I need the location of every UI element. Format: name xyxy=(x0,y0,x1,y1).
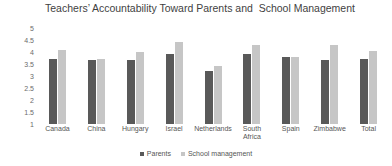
bar-parents xyxy=(166,54,174,124)
bar-parents xyxy=(49,59,57,124)
bar-group xyxy=(349,28,388,124)
bar-group xyxy=(77,28,116,124)
bar-parents xyxy=(205,71,213,124)
bar-parents xyxy=(127,60,135,124)
legend-swatch-icon xyxy=(140,152,144,156)
plot-area xyxy=(38,28,388,124)
bar-school-management xyxy=(58,50,66,124)
y-axis-tick-label: 2.5 xyxy=(24,85,34,92)
legend-entry[interactable]: Parents xyxy=(140,150,171,158)
bar-group xyxy=(155,28,194,124)
y-axis-tick-label: 4 xyxy=(30,49,34,56)
bar-parents xyxy=(243,54,251,124)
x-axis-tick-label: South Africa xyxy=(232,125,271,141)
bar-school-management xyxy=(175,42,183,124)
x-axis-tick-label: Canada xyxy=(38,125,77,141)
y-axis-tick-label: 2 xyxy=(30,97,34,104)
x-axis: CanadaChinaHungaryIsraelNetherlandsSouth… xyxy=(38,125,388,141)
bar-group xyxy=(310,28,349,124)
x-axis-tick-label: Netherlands xyxy=(194,125,233,141)
chart-legend: ParentsSchool management xyxy=(0,150,392,158)
bar-group xyxy=(271,28,310,124)
legend-label: School management xyxy=(188,150,252,158)
bar-parents xyxy=(282,57,290,124)
bar-chart-figure: Teachers’ Accountability Toward Parents … xyxy=(0,0,392,166)
y-axis-tick-label: 4.5 xyxy=(24,37,34,44)
plot-region: 54.543.532.521.51 xyxy=(0,28,392,124)
y-axis-tick-label: 1 xyxy=(30,121,34,128)
y-axis-tick-label: 3 xyxy=(30,73,34,80)
bar-school-management xyxy=(291,57,299,124)
y-axis-tick-label: 3.5 xyxy=(24,61,34,68)
chart-title: Teachers’ Accountability Toward Parents … xyxy=(40,2,360,15)
bar-group xyxy=(38,28,77,124)
y-axis-tick-label: 5 xyxy=(30,25,34,32)
bar-school-management xyxy=(97,59,105,124)
bar-parents xyxy=(321,60,329,124)
y-axis: 54.543.532.521.51 xyxy=(0,28,38,124)
bar-school-management xyxy=(136,52,144,124)
legend-entry[interactable]: School management xyxy=(181,150,252,158)
x-axis-tick-label: Spain xyxy=(271,125,310,141)
bar-school-management xyxy=(369,51,377,124)
x-axis-tick-label: Israel xyxy=(155,125,194,141)
x-axis-tick-label: China xyxy=(77,125,116,141)
bar-parents xyxy=(360,59,368,124)
y-axis-tick-label: 1.5 xyxy=(24,109,34,116)
bar-parents xyxy=(88,60,96,124)
x-axis-tick-label: Hungary xyxy=(116,125,155,141)
bar-school-management xyxy=(330,45,338,124)
bar-group xyxy=(232,28,271,124)
legend-label: Parents xyxy=(147,150,171,158)
x-axis-tick-label: Total xyxy=(349,125,388,141)
legend-swatch-icon xyxy=(181,152,185,156)
x-axis-tick-label: Zimbabwe xyxy=(310,125,349,141)
bar-school-management xyxy=(252,45,260,124)
bar-group xyxy=(116,28,155,124)
bar-school-management xyxy=(214,66,222,124)
bar-group xyxy=(194,28,233,124)
